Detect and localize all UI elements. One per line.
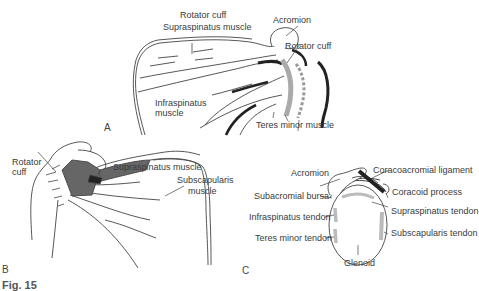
label-subscapularis-1-b: Subscapularis: [177, 175, 234, 185]
figure-caption: Fig. 15: [2, 279, 37, 291]
label-subacromial-bursa-c: Subacromial bursa: [254, 191, 329, 201]
label-coracoacromial-ligament-c: Coracoacromial ligament: [373, 165, 473, 175]
label-cuff-b: cuff: [12, 167, 26, 177]
panel-b-drawing: [31, 142, 211, 268]
label-rotator-cuff-a-top: Rotator cuff: [180, 10, 226, 20]
label-rotator-b: Rotator: [12, 157, 42, 167]
panel-letter-a: A: [104, 122, 111, 133]
label-infraspinatus-1-a: Infraspinatus: [155, 98, 207, 108]
label-acromion-a: Acromion: [273, 15, 311, 25]
label-acromion-c: Acromion: [291, 168, 329, 178]
label-infraspinatus-tendon-c: Infraspinatus tendon: [249, 212, 331, 222]
label-glenoid-c: Glenoid: [344, 258, 375, 268]
label-teres-minor-muscle-a: Teres minor muscle: [256, 120, 334, 130]
label-subscapularis-2-b: muscle: [188, 186, 217, 196]
label-rotator-cuff-a-right: Rotator cuff: [285, 41, 331, 51]
label-coracoid-process-c: Coracoid process: [392, 187, 462, 197]
label-subscapularis-tendon-c: Subscapularis tendon: [391, 228, 478, 238]
panel-letter-b: B: [2, 264, 9, 275]
label-infraspinatus-2-a: muscle: [155, 108, 184, 118]
label-supraspinatus-tendon-c: Supraspinatus tendon: [391, 206, 479, 216]
panel-letter-c: C: [242, 265, 249, 276]
label-teres-minor-tendon-c: Teres minor tendon: [255, 233, 332, 243]
label-supraspinatus-muscle-a: Supraspinatus muscle: [163, 22, 252, 32]
label-supraspinatus-muscle-b: Supraspinatus muscle: [113, 162, 202, 172]
